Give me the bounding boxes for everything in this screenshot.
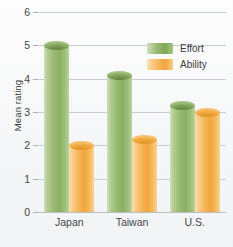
gridline <box>38 212 226 213</box>
y-axis-tick <box>33 112 38 113</box>
y-axis-tick-label: 0 <box>24 206 30 218</box>
bar-effort-us <box>170 101 195 212</box>
bar-body <box>195 112 220 212</box>
legend-item-effort: Effort <box>147 41 207 55</box>
bar-group <box>44 12 94 212</box>
bar-chart: Mean rating 0123456 EffortAbility JapanT… <box>0 0 233 247</box>
y-axis-tick <box>33 79 38 80</box>
x-axis-label-us: U.S. <box>184 216 204 228</box>
x-axis: JapanTaiwanU.S. <box>38 216 226 234</box>
legend-swatch-effort <box>147 43 173 54</box>
legend-item-ability: Ability <box>147 57 207 71</box>
bar-effort-taiwan <box>107 71 132 212</box>
y-axis-tick <box>33 179 38 180</box>
bar-ability-taiwan <box>132 135 157 212</box>
y-axis-tick-label: 2 <box>24 139 30 151</box>
bar-cylinder-top <box>132 135 157 144</box>
y-axis-tick <box>33 45 38 46</box>
legend-swatch-ability <box>147 59 173 70</box>
y-axis-title: Mean rating <box>12 51 23 161</box>
y-axis-tick <box>33 12 38 13</box>
y-axis-tick-label: 6 <box>24 6 30 18</box>
x-axis-label-japan: Japan <box>55 216 84 228</box>
legend-label: Ability <box>180 59 207 70</box>
y-axis-tick-label: 4 <box>24 73 30 85</box>
y-axis-tick-label: 5 <box>24 39 30 51</box>
y-axis-tick-label: 3 <box>24 106 30 118</box>
x-axis-label-taiwan: Taiwan <box>116 216 149 228</box>
bar-ability-us <box>195 108 220 212</box>
bar-effort-japan <box>44 41 69 212</box>
bar-ability-japan <box>69 141 94 212</box>
bar-body <box>170 105 195 212</box>
y-axis-tick <box>33 145 38 146</box>
legend-label: Effort <box>180 43 204 54</box>
y-axis-tick <box>33 212 38 213</box>
bar-body <box>107 75 132 212</box>
chart-legend: EffortAbility <box>147 41 207 73</box>
y-axis-tick-label: 1 <box>24 173 30 185</box>
bar-cylinder-top <box>195 108 220 117</box>
bar-body <box>44 45 69 212</box>
bar-body <box>69 145 94 212</box>
bar-body <box>132 139 157 212</box>
